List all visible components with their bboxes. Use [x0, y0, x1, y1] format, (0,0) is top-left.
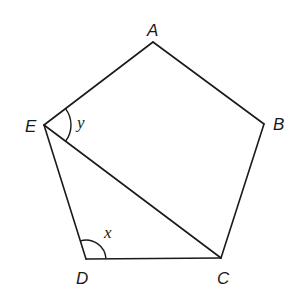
- edge-ab: [153, 42, 264, 124]
- edge-ea: [44, 42, 153, 125]
- vertex-label-b: B: [273, 115, 284, 134]
- angle-arc-x: [80, 240, 106, 259]
- pentagon-diagram: A B C D E y x: [0, 0, 301, 296]
- angle-label-x: x: [103, 223, 112, 242]
- diagonal-ec: [44, 125, 221, 258]
- angle-label-y: y: [75, 113, 85, 132]
- edge-de: [44, 125, 86, 259]
- vertex-label-a: A: [146, 21, 158, 40]
- angle-arc-y: [66, 109, 71, 142]
- vertex-label-e: E: [25, 117, 37, 136]
- vertex-label-d: D: [76, 269, 88, 288]
- vertex-label-c: C: [217, 269, 230, 288]
- edge-bc: [221, 124, 264, 258]
